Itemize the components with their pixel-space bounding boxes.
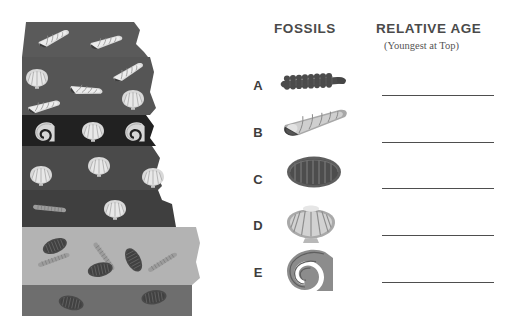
answer-line-4[interactable] xyxy=(382,235,494,236)
fossil-specimen-b xyxy=(281,105,357,157)
strata-layer-7 xyxy=(22,285,192,316)
strata-layer-3 xyxy=(22,115,156,146)
segmented-crinoid-fossil-icon xyxy=(281,73,346,90)
relative-age-column-header: RELATIVE AGE xyxy=(376,21,481,36)
answer-line-3[interactable] xyxy=(382,188,494,189)
answer-line-1[interactable] xyxy=(382,95,494,96)
fossils-column-header: FOSSILS xyxy=(274,21,336,36)
conical-gastropod-shell-fossil-icon xyxy=(284,110,347,136)
strata-layer-6 xyxy=(22,227,200,285)
answer-columns: FOSSILS RELATIVE AGE (Youngest at Top) A xyxy=(245,0,521,329)
scallop-bivalve-shell-fossil-icon xyxy=(287,206,335,243)
strata-layer-1 xyxy=(22,22,148,57)
row-letter-d: D xyxy=(251,218,265,233)
oval-trilobite-fossil-icon xyxy=(287,157,341,188)
row-letter-c: C xyxy=(251,172,265,187)
strata-layer-4 xyxy=(22,146,164,190)
relative-age-subtitle: (Youngest at Top) xyxy=(384,40,459,51)
spiral-ammonite-fossil-icon xyxy=(287,250,333,291)
strata-layer-5 xyxy=(22,190,176,227)
strata-layer-2 xyxy=(22,57,156,117)
fossil-specimen-e xyxy=(281,244,357,296)
rock-strata-diagram xyxy=(0,0,245,329)
answer-line-2[interactable] xyxy=(382,142,494,143)
row-letter-b: B xyxy=(251,125,265,140)
answer-line-5[interactable] xyxy=(382,282,494,283)
relative-age-worksheet: FOSSILS RELATIVE AGE (Youngest at Top) A xyxy=(0,0,521,329)
row-letter-a: A xyxy=(251,78,265,93)
row-letter-e: E xyxy=(251,265,265,280)
fossil-specimen-d xyxy=(281,196,357,248)
